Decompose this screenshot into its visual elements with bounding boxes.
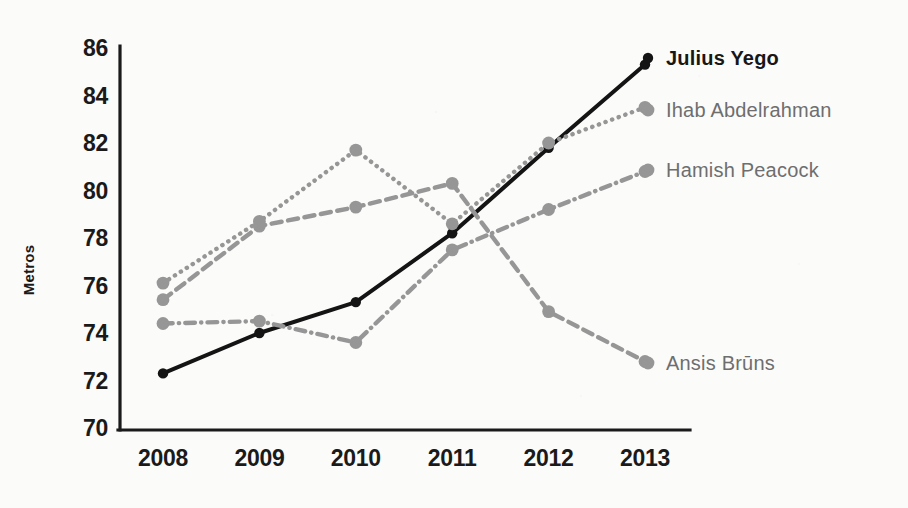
x-tick-label: 2008 [138, 445, 188, 471]
data-point-marker [253, 220, 266, 233]
series-label: Ansis Brūns [666, 352, 775, 374]
data-point-marker [349, 201, 362, 214]
data-point-marker [542, 203, 555, 216]
x-axis-tick-labels: 200820092010201120122013 [138, 445, 670, 471]
series-end-marker [642, 104, 655, 117]
data-point-marker [349, 336, 362, 349]
data-point-marker [157, 317, 170, 330]
x-tick-label: 2012 [524, 445, 574, 471]
data-point-marker [351, 297, 361, 307]
y-tick-label: 80 [83, 178, 108, 204]
data-point-marker [349, 144, 362, 157]
data-point-marker [254, 328, 264, 338]
data-point-marker [157, 277, 170, 290]
series-end-marker [642, 164, 655, 177]
y-tick-label: 74 [83, 320, 108, 346]
chart-plot-area: 868482807876747270 200820092010201120122… [0, 0, 908, 508]
series-ansis-br-ns [157, 177, 655, 369]
y-tick-label: 82 [83, 130, 108, 156]
data-point-marker [542, 137, 555, 150]
data-point-marker [446, 244, 459, 257]
y-axis-title: Metros [20, 245, 37, 295]
data-point-marker [158, 368, 168, 378]
series-end-marker [642, 357, 655, 370]
y-tick-label: 84 [83, 83, 108, 109]
javelin-progression-chart: 868482807876747270 200820092010201120122… [0, 0, 908, 508]
y-axis-tick-labels: 868482807876747270 [83, 35, 108, 441]
y-tick-label: 86 [83, 35, 108, 61]
data-point-marker [446, 177, 459, 190]
y-tick-label: 72 [83, 368, 108, 394]
series-labels: Julius YegoIhab AbdelrahmanHamish Peacoc… [666, 47, 832, 374]
series-end-marker [643, 53, 653, 63]
x-tick-label: 2011 [428, 445, 477, 471]
y-tick-label: 70 [83, 415, 108, 441]
y-tick-label: 78 [83, 225, 108, 251]
x-tick-label: 2009 [234, 445, 284, 471]
data-point-marker [446, 217, 459, 230]
x-tick-label: 2013 [620, 445, 670, 471]
series-label: Hamish Peacock [666, 159, 820, 181]
series-layer [157, 53, 655, 379]
series-julius-yego [158, 53, 653, 379]
series-line [163, 183, 645, 361]
x-tick-label: 2010 [331, 445, 381, 471]
series-label: Julius Yego [666, 47, 779, 69]
data-point-marker [542, 305, 555, 318]
y-tick-label: 76 [83, 273, 108, 299]
data-point-marker [253, 315, 266, 328]
series-label: Ihab Abdelrahman [666, 99, 832, 121]
data-point-marker [157, 293, 170, 306]
series-line [163, 65, 645, 374]
series-hamish-peacock [157, 164, 655, 349]
